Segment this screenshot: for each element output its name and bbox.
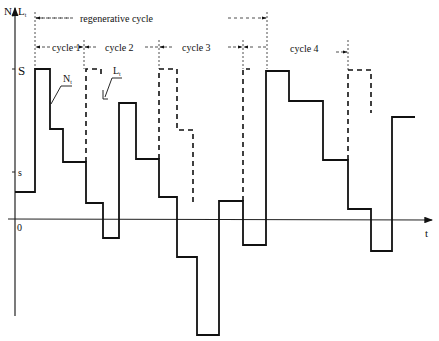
cycle-3-label: cycle 3 (182, 42, 211, 53)
y-axis-label-l: Lt (18, 5, 27, 18)
cycle-1-label: cycle 1 (52, 42, 81, 53)
cycle-2-label: cycle 2 (105, 42, 134, 53)
regenerative-cycle-label: regenerative cycle (80, 13, 154, 24)
n-curve-pointer (51, 86, 72, 104)
l-curve-pointer (103, 78, 122, 99)
x-axis-label: t (425, 227, 428, 239)
origin-label: 0 (17, 222, 22, 233)
y-axis-label-n: Nt (4, 5, 14, 18)
inventory-diagram: Nt Lt S s 0 t regenerative cycle cycle 1… (0, 0, 439, 341)
tick-label-S: S (18, 63, 25, 78)
cycle-4-label: cycle 4 (290, 43, 319, 54)
inventory-position-curves (86, 69, 371, 205)
n-curve-label: Nt (63, 73, 72, 85)
x-axis (8, 219, 432, 220)
tick-label-s: s (18, 167, 22, 178)
l-curve-label: Lt (113, 65, 121, 77)
inventory-level-curve (15, 69, 415, 335)
